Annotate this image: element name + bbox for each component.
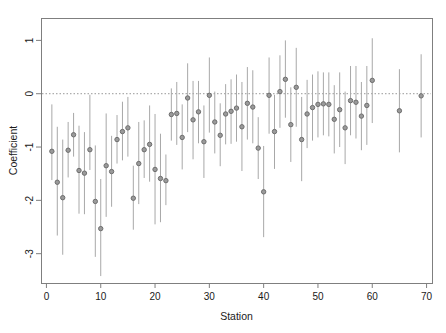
data-point — [99, 226, 103, 230]
data-point — [147, 142, 151, 146]
x-tick-label: 20 — [149, 291, 161, 302]
error-bars-layer — [52, 38, 421, 276]
data-point — [419, 94, 423, 98]
data-point — [196, 110, 200, 114]
data-point — [359, 114, 363, 118]
data-point — [229, 109, 233, 113]
y-tick-label: -3 — [25, 249, 36, 258]
data-point — [397, 109, 401, 113]
data-point — [77, 168, 81, 172]
data-point — [316, 102, 320, 106]
data-point — [240, 125, 244, 129]
x-tick-label: 10 — [95, 291, 107, 302]
coefficient-plot-figure: 010203040506070 10-1-2-3 Station Coeffic… — [0, 0, 446, 333]
x-tick-label: 0 — [44, 291, 50, 302]
data-point — [115, 137, 119, 141]
data-point — [283, 77, 287, 81]
x-tick-label: 30 — [204, 291, 216, 302]
y-tick-label: -1 — [25, 142, 36, 151]
data-point — [88, 148, 92, 152]
data-point — [256, 146, 260, 150]
x-tick-label: 70 — [421, 291, 433, 302]
data-point — [93, 199, 97, 203]
data-point — [153, 167, 157, 171]
x-tick-label: 40 — [258, 291, 270, 302]
x-tick-label: 50 — [312, 291, 324, 302]
y-tick-label: 0 — [25, 90, 36, 96]
data-point — [61, 195, 65, 199]
data-point — [278, 89, 282, 93]
data-point — [55, 180, 59, 184]
data-point — [332, 117, 336, 121]
data-point — [175, 111, 179, 115]
data-point — [327, 102, 331, 106]
data-point — [365, 103, 369, 107]
data-point — [354, 100, 358, 104]
data-point — [251, 105, 255, 109]
data-point — [109, 169, 113, 173]
data-point — [267, 93, 271, 97]
data-point — [223, 112, 227, 116]
data-point — [234, 106, 238, 110]
data-point — [185, 96, 189, 100]
data-point — [169, 112, 173, 116]
data-point — [158, 176, 162, 180]
data-point — [294, 85, 298, 89]
x-axis-label: Station — [220, 310, 253, 322]
data-point — [207, 93, 211, 97]
data-point — [343, 126, 347, 130]
data-point — [218, 133, 222, 137]
data-point — [164, 178, 168, 182]
data-point — [261, 190, 265, 194]
data-point — [120, 129, 124, 133]
data-point — [321, 102, 325, 106]
data-point — [66, 148, 70, 152]
data-point — [272, 129, 276, 133]
data-point — [213, 120, 217, 124]
y-tick-label: 1 — [25, 37, 36, 43]
data-point — [50, 149, 54, 153]
data-point — [289, 122, 293, 126]
data-point — [348, 98, 352, 102]
data-point — [104, 163, 108, 167]
plot-frame — [42, 19, 433, 284]
data-point — [82, 171, 86, 175]
data-point — [202, 140, 206, 144]
plot-canvas: 010203040506070 10-1-2-3 Station Coeffic… — [0, 0, 446, 333]
data-point — [142, 148, 146, 152]
data-point — [131, 196, 135, 200]
y-axis: 10-1-2-3 — [25, 37, 42, 258]
data-point — [137, 161, 141, 165]
data-point — [370, 78, 374, 82]
data-point — [126, 126, 130, 130]
data-point — [245, 101, 249, 105]
data-point — [180, 135, 184, 139]
data-point — [310, 105, 314, 109]
data-point — [305, 112, 309, 116]
data-point — [191, 118, 195, 122]
data-point — [71, 133, 75, 137]
y-axis-label: Coefficient — [7, 126, 19, 176]
data-point — [299, 137, 303, 141]
x-tick-label: 60 — [367, 291, 379, 302]
data-point — [337, 108, 341, 112]
x-axis: 010203040506070 — [44, 283, 433, 302]
y-tick-label: -2 — [25, 195, 36, 204]
